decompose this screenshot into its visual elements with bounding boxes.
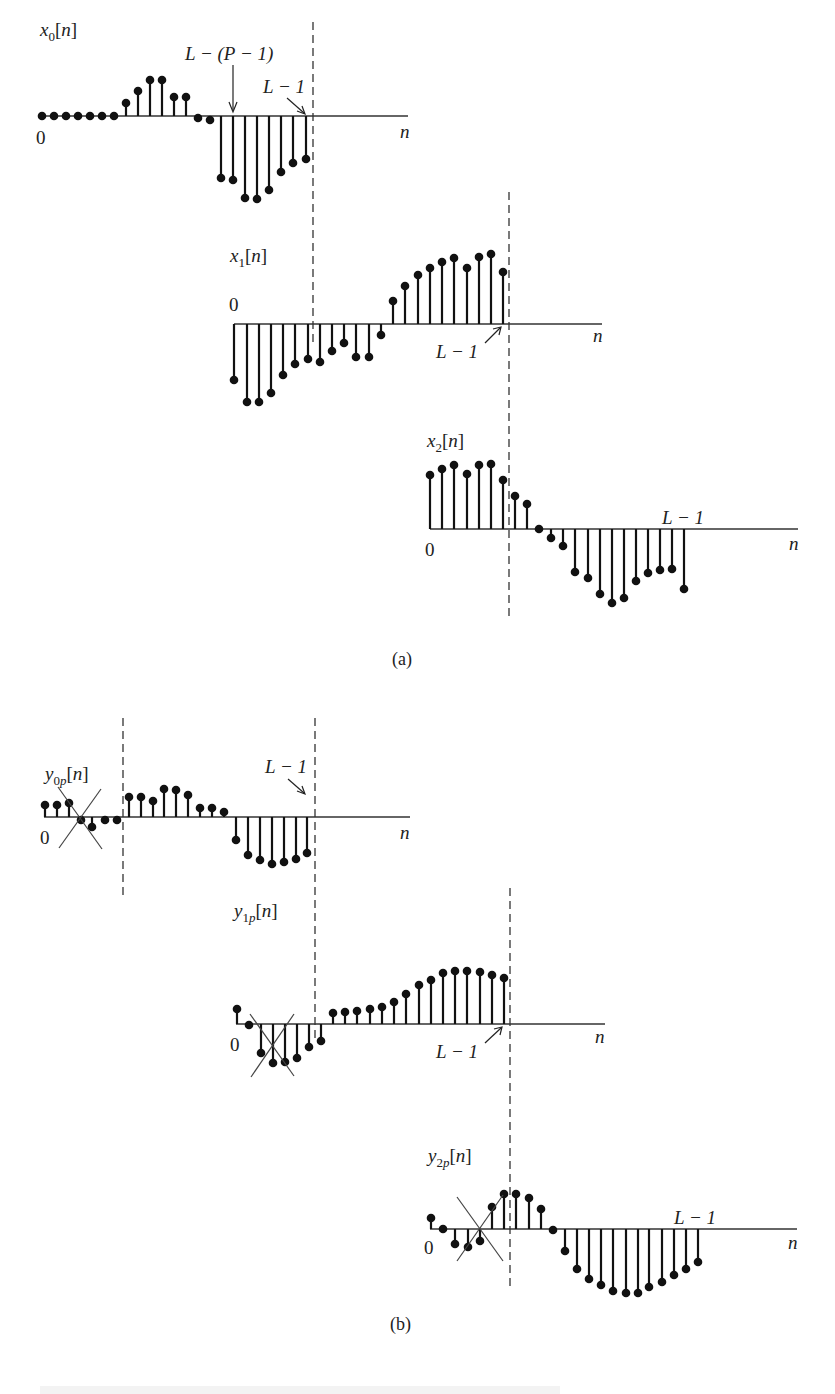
stem-marker xyxy=(134,87,143,96)
stem-marker xyxy=(316,358,325,367)
stem-marker xyxy=(475,253,484,262)
arrow-L-minus-1-x0 xyxy=(287,98,304,113)
stem-marker xyxy=(53,801,62,810)
stem-marker xyxy=(476,968,485,977)
stem-marker xyxy=(340,339,349,348)
stem-plot-x0 xyxy=(38,76,408,204)
stem-marker xyxy=(341,1008,350,1017)
stem-marker xyxy=(194,114,203,123)
y1p-marker-L-minus-1: L − 1 xyxy=(435,1041,478,1062)
arrow-L-minus-1-x1 xyxy=(485,328,500,343)
stem-marker xyxy=(499,476,508,485)
x1-zero-label: 0 xyxy=(229,294,239,315)
stem-marker xyxy=(597,1281,606,1290)
y0p-zero-label: 0 xyxy=(40,827,50,848)
stem-plot-y2p xyxy=(427,1190,797,1298)
stem-marker xyxy=(401,282,410,291)
stem-marker xyxy=(632,577,641,586)
stem-marker xyxy=(547,534,556,543)
stem-marker xyxy=(487,250,496,259)
stem-marker xyxy=(293,1054,302,1063)
stem-marker xyxy=(585,1275,594,1284)
stem-marker xyxy=(41,801,50,810)
stem-marker xyxy=(535,525,544,534)
stem-marker xyxy=(253,195,262,204)
panel-a-label: (a) xyxy=(392,649,412,670)
stem-marker xyxy=(680,585,689,594)
y1p-zero-label: 0 xyxy=(230,1034,240,1055)
stem-marker xyxy=(50,112,59,121)
stem-marker xyxy=(476,1237,485,1246)
panel-b-label: (b) xyxy=(390,1314,411,1335)
stem-marker xyxy=(427,976,436,985)
overlap-save-figure: x0[n] 0 n L − (P − 1) L − 1 x1[n] 0 n L … xyxy=(0,0,835,1394)
stem-marker xyxy=(243,398,252,407)
stem-marker xyxy=(62,112,71,121)
stem-marker xyxy=(229,176,238,185)
stem-marker xyxy=(584,574,593,583)
stem-marker xyxy=(634,1289,643,1298)
stem-marker xyxy=(196,804,205,813)
x0-n-label: n xyxy=(400,121,410,142)
stem-marker xyxy=(415,981,424,990)
plot-x0-labels: x0[n] 0 n L − (P − 1) L − 1 xyxy=(36,19,410,148)
stem-marker xyxy=(329,1009,338,1018)
stem-marker xyxy=(537,1205,546,1214)
stem-marker xyxy=(390,998,399,1007)
stem-marker xyxy=(74,112,83,121)
x2-marker-L-minus-1: L − 1 xyxy=(661,507,704,528)
stem-marker xyxy=(463,470,472,479)
stem-marker xyxy=(512,1190,521,1199)
stem-marker xyxy=(451,1240,460,1249)
x2-label: x2[n] xyxy=(426,430,464,455)
stem-marker xyxy=(694,1258,703,1267)
stem-marker xyxy=(365,353,374,362)
stem-marker xyxy=(499,268,508,277)
stem-marker xyxy=(450,254,459,263)
stem-marker xyxy=(305,1043,314,1052)
stem-marker xyxy=(511,492,520,501)
stem-marker xyxy=(265,186,274,195)
stem-marker xyxy=(620,594,629,603)
x1-marker-L-minus-1: L − 1 xyxy=(435,341,478,362)
stem-marker xyxy=(220,808,229,817)
stem-plot-y1p xyxy=(233,967,605,1077)
stem-marker xyxy=(170,93,179,102)
stem-marker xyxy=(377,331,386,340)
stem-marker xyxy=(668,565,677,574)
stem-marker xyxy=(303,849,312,858)
y0p-marker-L-minus-1: L − 1 xyxy=(264,756,307,777)
block-boundary-dashed-lines xyxy=(123,22,510,1288)
stem-marker xyxy=(328,347,337,356)
stem-marker xyxy=(500,974,509,983)
plot-y1p-labels: y1p[n] 0 n L − 1 xyxy=(230,900,605,1062)
stem-marker xyxy=(645,1283,654,1292)
stem-marker xyxy=(98,112,107,121)
stem-plot-x2 xyxy=(426,460,798,608)
stem-marker xyxy=(426,264,435,273)
stem-marker xyxy=(158,76,167,85)
stem-marker xyxy=(487,460,496,469)
stem-marker xyxy=(656,566,665,575)
stem-marker xyxy=(658,1278,667,1287)
stem-marker xyxy=(122,99,131,108)
stem-marker xyxy=(426,471,435,480)
stem-marker xyxy=(438,258,447,267)
stem-marker xyxy=(160,785,169,794)
stem-marker xyxy=(644,569,653,578)
x1-n-label: n xyxy=(593,325,603,346)
stem-marker xyxy=(317,1037,326,1046)
stem-marker xyxy=(184,791,193,800)
x2-zero-label: 0 xyxy=(425,539,435,560)
stem-marker xyxy=(182,93,191,102)
stem-marker xyxy=(280,858,289,867)
stem-marker xyxy=(149,797,158,806)
stem-marker xyxy=(291,360,300,369)
stem-marker xyxy=(125,793,134,802)
plot-y0p-labels: y0p[n] 0 n L − 1 xyxy=(40,756,410,848)
stem-marker xyxy=(427,1214,436,1223)
stem-marker xyxy=(267,389,276,398)
stem-marker xyxy=(670,1271,679,1280)
stem-marker xyxy=(438,465,447,474)
x0-zero-label: 0 xyxy=(36,127,46,148)
